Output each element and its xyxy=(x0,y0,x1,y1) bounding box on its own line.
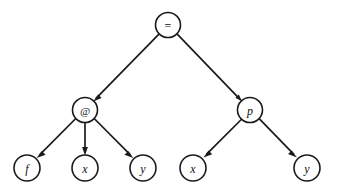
node-label: y xyxy=(139,162,146,176)
node-label: x xyxy=(81,162,88,176)
edge-line xyxy=(94,119,130,155)
node-root[interactable]: = xyxy=(156,13,181,38)
arrow-head xyxy=(37,151,46,158)
node-label: y xyxy=(303,162,310,176)
edge-line xyxy=(206,120,241,155)
node-label: = xyxy=(165,19,172,33)
node-leaf-x1[interactable]: x xyxy=(72,155,98,181)
arrow-head xyxy=(125,151,134,158)
arrow-head xyxy=(93,95,102,102)
edge-pred-x xyxy=(203,120,241,158)
node-leaf-x2[interactable]: x xyxy=(180,155,206,181)
arrow-head xyxy=(288,151,297,158)
node-label: p xyxy=(246,104,253,118)
node-pred[interactable]: p xyxy=(238,98,263,123)
edge-root-apply xyxy=(93,34,159,102)
node-apply[interactable]: @ xyxy=(73,98,98,123)
edge-line xyxy=(259,119,294,155)
edge-line xyxy=(96,34,159,99)
node-leaf-f[interactable]: f xyxy=(14,155,40,181)
edge-layer xyxy=(37,34,297,158)
node-leaf-y2[interactable]: y xyxy=(294,155,320,181)
edge-apply-x xyxy=(82,123,88,156)
edge-apply-f xyxy=(37,119,76,158)
node-label: @ xyxy=(80,105,90,117)
diagram-canvas: = @ p f x y x xyxy=(0,0,337,194)
edge-root-pred xyxy=(177,34,242,102)
expression-tree-graph: = @ p f x y x xyxy=(0,0,337,194)
edge-line xyxy=(177,34,239,99)
edge-pred-y xyxy=(259,119,297,158)
node-layer: = @ p f x y x xyxy=(14,13,320,182)
node-label: x xyxy=(189,162,196,176)
edge-line xyxy=(40,119,76,155)
node-leaf-y1[interactable]: y xyxy=(130,155,156,181)
arrow-head xyxy=(203,151,212,158)
edge-apply-y xyxy=(94,119,133,158)
